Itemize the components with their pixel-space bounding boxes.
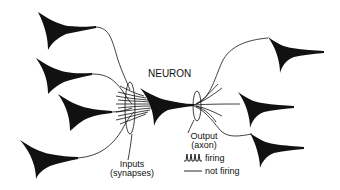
legend-not-firing-label: not firing xyxy=(205,166,240,176)
input-neuron-3 xyxy=(58,94,112,131)
input-neuron-1 xyxy=(38,12,96,50)
flat-line-icon xyxy=(184,166,202,176)
spike-train-icon xyxy=(184,153,202,163)
input-neuron-2 xyxy=(36,58,92,94)
output-neuron-3 xyxy=(250,133,304,168)
output-neuron-1 xyxy=(268,37,324,73)
output-label-line2: (axon) xyxy=(184,141,224,150)
neuron-title: NEURON xyxy=(148,69,191,79)
inputs-label-line2: (synapses) xyxy=(104,169,160,178)
neuron-diagram xyxy=(0,0,340,190)
inputs-pointer-line xyxy=(128,134,132,160)
central-neuron xyxy=(140,88,194,126)
input-neuron-4 xyxy=(20,140,78,179)
legend-firing-label: firing xyxy=(205,153,225,163)
output-neuron-2 xyxy=(238,92,294,128)
output-branch-1 xyxy=(194,38,268,105)
legend-firing: firing xyxy=(184,153,225,163)
inputs-label: Inputs (synapses) xyxy=(104,160,160,178)
output-label: Output (axon) xyxy=(184,132,224,150)
legend-not-firing: not firing xyxy=(184,166,240,176)
